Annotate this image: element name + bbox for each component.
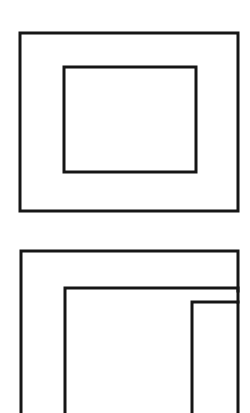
bottom-figure-group	[21, 251, 238, 413]
bottom-inner-rectangle	[192, 302, 238, 413]
top-inner-rectangle	[64, 67, 196, 172]
bottom-outer-rectangle	[21, 251, 238, 413]
line-drawing-canvas	[0, 0, 250, 413]
figure-sheet: Nested Rectangles Figure Two Nested Rect…	[0, 0, 250, 413]
top-outer-rectangle	[20, 33, 238, 211]
bottom-middle-rectangle	[65, 288, 238, 413]
top-figure-group	[20, 33, 238, 211]
